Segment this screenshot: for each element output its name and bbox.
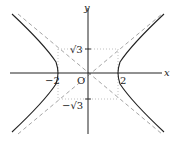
origin-label: O — [77, 75, 85, 86]
vertex-pos-label: 2 — [120, 75, 126, 86]
y-axis-label: y — [83, 2, 90, 13]
sqrt3-label: √3 — [70, 44, 83, 55]
neg-sqrt3-label: −√3 — [62, 100, 83, 111]
vertex-neg-label: −2 — [45, 75, 60, 86]
hyperbola-diagram: x y O −2 2 √3 −√3 — [0, 0, 180, 142]
x-axis-label: x — [164, 67, 170, 78]
